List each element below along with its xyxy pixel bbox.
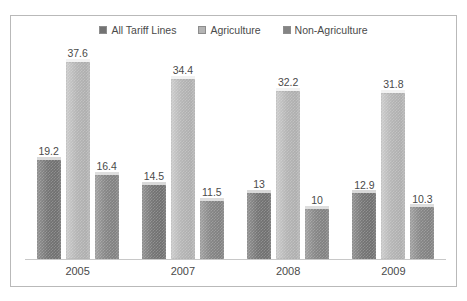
bar-slot: 14.5: [142, 46, 166, 259]
bar-all-tariff-lines-2009[interactable]: 12.9: [352, 190, 376, 259]
category-axis-labels: 2005 2007 2008 2009: [25, 262, 446, 280]
bar-agriculture-2005[interactable]: 37.6: [66, 59, 90, 259]
bar-value-label: 10.3: [412, 194, 432, 205]
category-label-2007: 2007: [130, 262, 235, 280]
bar-value-label: 34.4: [173, 65, 193, 76]
category-label-2008: 2008: [236, 262, 341, 280]
bar-value-label: 10: [311, 195, 323, 206]
category-axis-line: [25, 259, 446, 260]
bar-all-tariff-lines-2005[interactable]: 19.2: [37, 157, 61, 259]
plot-area: 19.2 37.6 16.4: [25, 46, 446, 260]
chart-container: All Tariff Lines Agriculture Non-Agricul…: [0, 0, 467, 301]
chart-legend: All Tariff Lines Agriculture Non-Agricul…: [11, 25, 456, 36]
legend-item-non-agriculture[interactable]: Non-Agriculture: [283, 25, 368, 36]
bar-non-agriculture-2005[interactable]: 16.4: [95, 172, 119, 259]
bar-non-agriculture-2008[interactable]: 10: [305, 206, 329, 259]
bar-slot: 16.4: [95, 46, 119, 259]
bar-group-2007: 14.5 34.4 11.5: [130, 46, 235, 259]
bar-non-agriculture-2009[interactable]: 10.3: [410, 204, 434, 259]
legend-label: All Tariff Lines: [111, 25, 176, 36]
legend-label: Agriculture: [210, 25, 260, 36]
bar-group-2005: 19.2 37.6 16.4: [25, 46, 130, 259]
bar-slot: 10.3: [410, 46, 434, 259]
bar-value-label: 14.5: [144, 171, 164, 182]
bar-value-label: 13: [253, 179, 265, 190]
bar-value-label: 32.2: [278, 77, 298, 88]
bar-value-label: 16.4: [96, 161, 116, 172]
bar-agriculture-2008[interactable]: 32.2: [276, 88, 300, 259]
bar-value-label: 37.6: [67, 48, 87, 59]
bar-value-label: 19.2: [38, 146, 58, 157]
category-label-2009: 2009: [341, 262, 446, 280]
legend-item-all-tariff-lines[interactable]: All Tariff Lines: [99, 25, 176, 36]
bar-agriculture-2007[interactable]: 34.4: [171, 76, 195, 259]
category-label-2005: 2005: [25, 262, 130, 280]
bar-slot: 34.4: [171, 46, 195, 259]
bar-groups: 19.2 37.6 16.4: [25, 46, 446, 259]
bar-slot: 11.5: [200, 46, 224, 259]
bar-group-2008: 13 32.2 10: [236, 46, 341, 259]
bar-slot: 37.6: [66, 46, 90, 259]
bar-slot: 31.8: [381, 46, 405, 259]
bar-all-tariff-lines-2007[interactable]: 14.5: [142, 182, 166, 259]
bar-all-tariff-lines-2008[interactable]: 13: [247, 190, 271, 259]
bar-value-label: 12.9: [354, 180, 374, 191]
bar-value-label: 11.5: [202, 187, 222, 198]
legend-swatch-icon: [283, 26, 291, 34]
bar-non-agriculture-2007[interactable]: 11.5: [200, 198, 224, 259]
bar-group-2009: 12.9 31.8 10.3: [341, 46, 446, 259]
bar-value-label: 31.8: [383, 79, 403, 90]
legend-label: Non-Agriculture: [295, 25, 368, 36]
chart-frame: All Tariff Lines Agriculture Non-Agricul…: [10, 15, 457, 287]
bar-slot: 19.2: [37, 46, 61, 259]
bar-slot: 32.2: [276, 46, 300, 259]
bar-slot: 10: [305, 46, 329, 259]
legend-swatch-icon: [198, 26, 206, 34]
legend-swatch-icon: [99, 26, 107, 34]
legend-item-agriculture[interactable]: Agriculture: [198, 25, 260, 36]
bar-slot: 12.9: [352, 46, 376, 259]
bar-slot: 13: [247, 46, 271, 259]
bar-agriculture-2009[interactable]: 31.8: [381, 90, 405, 259]
